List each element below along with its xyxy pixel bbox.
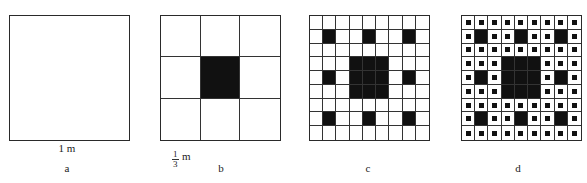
grid-cell (350, 71, 363, 85)
grid-cell (515, 16, 528, 30)
grid-cell (475, 126, 488, 140)
grid-cell (488, 57, 501, 71)
grid-cell (541, 57, 554, 71)
grid-cell (568, 71, 581, 85)
grid-cell (462, 16, 475, 30)
grid-cell (555, 30, 568, 44)
sub-square-dot (466, 75, 471, 80)
sub-square-dot (479, 20, 484, 25)
sub-square-dot (572, 20, 577, 25)
grid-cell (541, 112, 554, 126)
panel-c-square (309, 15, 430, 141)
grid-cell (416, 71, 429, 85)
grid-cell (363, 85, 376, 99)
grid-cell (323, 71, 336, 85)
grid-cell (541, 71, 554, 85)
panel-d-grid (462, 16, 581, 140)
grid-cell (376, 112, 389, 126)
grid-cell (310, 71, 323, 85)
grid-cell (416, 85, 429, 99)
grid-cell (462, 112, 475, 126)
grid-cell (389, 126, 402, 140)
sub-square-dot (545, 89, 550, 94)
grid-cell (541, 16, 554, 30)
panel-a-dimension-label: 1 m (52, 142, 82, 154)
fraction-denominator: 3 (172, 160, 179, 169)
grid-cell (403, 71, 416, 85)
sub-square-dot (466, 103, 471, 108)
grid-cell (515, 126, 528, 140)
sub-square-dot (492, 75, 497, 80)
grid-cell (336, 16, 349, 30)
grid-cell (568, 126, 581, 140)
grid-cell (488, 16, 501, 30)
grid-cell (310, 112, 323, 126)
sub-square-dot (532, 131, 537, 136)
grid-cell (528, 30, 541, 44)
grid-cell (323, 44, 336, 58)
sub-square-dot (492, 34, 497, 39)
grid-cell (363, 126, 376, 140)
grid-cell (310, 44, 323, 58)
sub-square-dot (479, 47, 484, 52)
sub-square-dot (479, 131, 484, 136)
sub-square-dot (466, 89, 471, 94)
grid-cell (403, 30, 416, 44)
grid-cell (201, 16, 241, 57)
grid-cell (376, 99, 389, 113)
grid-cell (502, 16, 515, 30)
sub-square-dot (572, 34, 577, 39)
grid-cell (310, 16, 323, 30)
grid-cell (541, 85, 554, 99)
grid-cell (240, 57, 280, 98)
sub-square-dot (572, 116, 577, 121)
grid-cell (568, 30, 581, 44)
grid-cell (310, 57, 323, 71)
grid-cell (416, 99, 429, 113)
grid-cell (336, 71, 349, 85)
grid-cell (376, 30, 389, 44)
grid-cell (502, 85, 515, 99)
grid-cell (323, 112, 336, 126)
sub-square-dot (492, 131, 497, 136)
grid-cell (310, 99, 323, 113)
grid-cell (201, 57, 241, 98)
grid-cell (515, 30, 528, 44)
sub-square-dot (505, 47, 510, 52)
grid-cell (350, 57, 363, 71)
grid-cell (416, 44, 429, 58)
grid-cell (488, 99, 501, 113)
grid-cell (475, 112, 488, 126)
sub-square-dot (466, 61, 471, 66)
grid-cell (475, 44, 488, 58)
sub-square-dot (466, 20, 471, 25)
grid-cell (323, 30, 336, 44)
grid-cell (403, 112, 416, 126)
grid-cell (350, 30, 363, 44)
grid-cell (555, 57, 568, 71)
grid-cell (403, 16, 416, 30)
grid-cell (541, 44, 554, 58)
panel-b-caption: b (211, 162, 231, 174)
grid-cell (323, 99, 336, 113)
grid-cell (502, 44, 515, 58)
grid-cell (161, 57, 201, 98)
sub-square-dot (479, 89, 484, 94)
grid-cell (363, 57, 376, 71)
sub-square-dot (558, 47, 563, 52)
sub-square-dot (545, 103, 550, 108)
panel-b-square (160, 15, 281, 141)
grid-cell (323, 16, 336, 30)
grid-cell (528, 44, 541, 58)
sub-square-dot (558, 20, 563, 25)
grid-cell (389, 44, 402, 58)
grid-cell (389, 99, 402, 113)
sub-square-dot (492, 103, 497, 108)
grid-cell (336, 85, 349, 99)
sub-square-dot (558, 131, 563, 136)
grid-cell (336, 30, 349, 44)
grid-cell (376, 16, 389, 30)
grid-cell (336, 57, 349, 71)
grid-cell (403, 126, 416, 140)
grid-cell (555, 44, 568, 58)
